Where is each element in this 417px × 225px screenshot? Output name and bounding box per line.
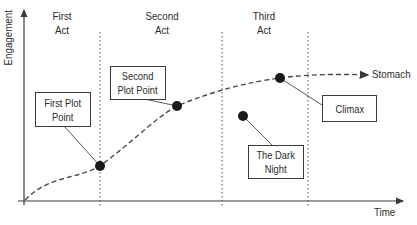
act-label-line: Third [247,9,281,23]
callout-second-plot-point: Second Plot Point [110,66,166,100]
callout-dark-night: The Dark Night [248,145,304,179]
callout-line: First Plot [45,96,82,110]
stomach-label: Stomach [372,68,411,80]
callout-first-plot-point: First Plot Point [35,92,91,127]
x-axis-label: Time [374,206,395,218]
callout-line: Plot Point [118,83,158,97]
act-label-second: Second Act [141,9,184,37]
act-label-line: First [45,9,79,23]
act-label-first: First Act [45,9,79,37]
callout-line: Night [257,162,295,176]
point-dark-night [238,111,248,121]
y-axis-label: Engagement [2,14,14,65]
callout-line: Second [118,69,158,83]
point-first-plot-point [95,161,105,171]
act-label-third: Third Act [247,9,281,37]
callout-line: Climax [335,102,364,116]
act-label-line: Act [45,23,79,37]
act-label-line: Act [141,23,184,37]
leader-first-plot-point [64,126,100,166]
callout-climax: Climax [322,95,377,122]
point-climax [275,73,285,83]
act-label-line: Second [141,9,184,23]
callout-line: The Dark [257,148,295,162]
leader-dark-night [243,116,272,145]
callout-line: Point [45,110,82,124]
point-second-plot-point [172,101,182,111]
leader-climax [280,78,322,105]
act-label-line: Act [247,23,281,37]
